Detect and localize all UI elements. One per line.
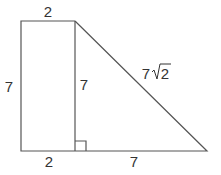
label-bottom-left: 2: [45, 153, 53, 170]
label-bottom-right: 7: [130, 153, 138, 170]
label-inner-vertical: 7: [80, 76, 88, 93]
label-hypotenuse: 7 2: [142, 64, 171, 82]
label-top: 2: [44, 3, 52, 20]
outer-shape: [21, 21, 207, 151]
right-angle-marker: [75, 141, 86, 151]
hypotenuse-radicand: 2: [161, 65, 169, 82]
label-left: 7: [5, 78, 13, 95]
trapezoid-diagram: 2 7 7 2 7 7 2: [0, 0, 221, 175]
hypotenuse-coefficient: 7: [142, 65, 150, 82]
